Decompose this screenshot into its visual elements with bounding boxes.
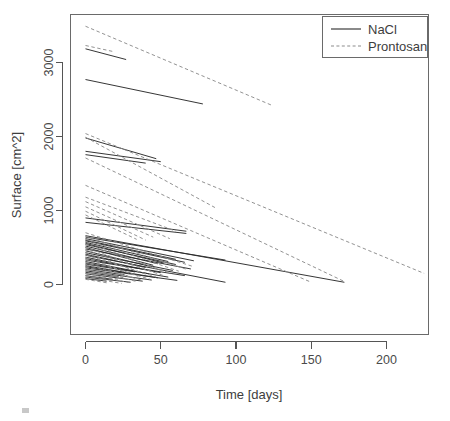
legend-label-nacl: NaCl xyxy=(368,22,397,37)
y-axis-title: Surface [cm^2] xyxy=(9,132,24,218)
scan-artifact-mark xyxy=(22,408,29,413)
x-tick-label-0: 0 xyxy=(82,353,89,367)
legend-label-prontosan: Prontosan xyxy=(368,39,427,54)
x-tick-label-200: 200 xyxy=(376,353,397,367)
y-tick-label-1000: 1000 xyxy=(42,197,56,225)
x-axis-title: Time [days] xyxy=(216,387,283,402)
surface-vs-time-chart: 050100150200 Time [days] 0100020003000 S… xyxy=(0,0,450,421)
y-tick-label-0: 0 xyxy=(42,281,56,288)
y-tick-label-3000: 3000 xyxy=(42,49,56,77)
legend[interactable]: NaCl Prontosan xyxy=(323,17,428,58)
y-tick-label-2000: 2000 xyxy=(42,123,56,151)
x-tick-label-50: 50 xyxy=(154,353,168,367)
x-tick-label-150: 150 xyxy=(301,353,322,367)
x-tick-label-100: 100 xyxy=(226,353,247,367)
